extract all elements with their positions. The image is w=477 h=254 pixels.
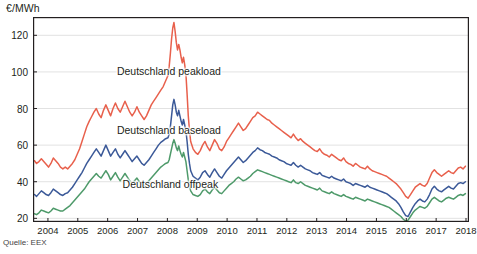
y-axis-tick-label: 100 xyxy=(11,66,28,77)
x-axis-tick-label: 2017 xyxy=(426,225,447,236)
x-axis-tick-label: 2015 xyxy=(366,225,387,236)
series-annotation-offpeak: Deutschland offpeak xyxy=(123,178,219,190)
y-axis-tick-label: 80 xyxy=(17,103,28,114)
x-axis-tick-label: 2013 xyxy=(306,225,327,236)
x-axis-tick-label: 2016 xyxy=(396,225,417,236)
x-axis-tick-label: 2004 xyxy=(37,225,58,236)
plot-area: 20406080100120 2004200520062007200820092… xyxy=(33,17,469,222)
y-axis-tick-label: 60 xyxy=(17,140,28,151)
y-axis-tick-label: 120 xyxy=(11,30,28,41)
series-annotation-baseload: Deutschland baseload xyxy=(117,124,221,136)
series-line xyxy=(34,99,465,216)
x-axis-tick-label: 2009 xyxy=(187,225,208,236)
x-axis-tick-label: 2008 xyxy=(157,225,178,236)
x-axis-tick-label: 2005 xyxy=(67,225,88,236)
x-axis-tick-label: 2010 xyxy=(217,225,238,236)
x-axis-tick-label: 2011 xyxy=(247,225,267,236)
x-axis-tick-label: 2007 xyxy=(127,225,148,236)
x-axis-tick-label: 2012 xyxy=(276,225,297,236)
x-axis-tick-label: 2018 xyxy=(455,225,476,236)
x-axis-tick-label: 2014 xyxy=(336,225,357,236)
chart-canvas xyxy=(33,17,469,222)
series-line xyxy=(34,22,465,198)
source-label: Quelle: EEX xyxy=(3,238,47,247)
x-axis-tick-label: 2006 xyxy=(97,225,118,236)
y-axis-tick-label: 40 xyxy=(17,176,28,187)
series-annotation-peakload: Deutschland peakload xyxy=(117,65,221,77)
y-axis-tick-label: 20 xyxy=(17,213,28,224)
y-axis-unit-label: €/MWh xyxy=(6,2,40,14)
